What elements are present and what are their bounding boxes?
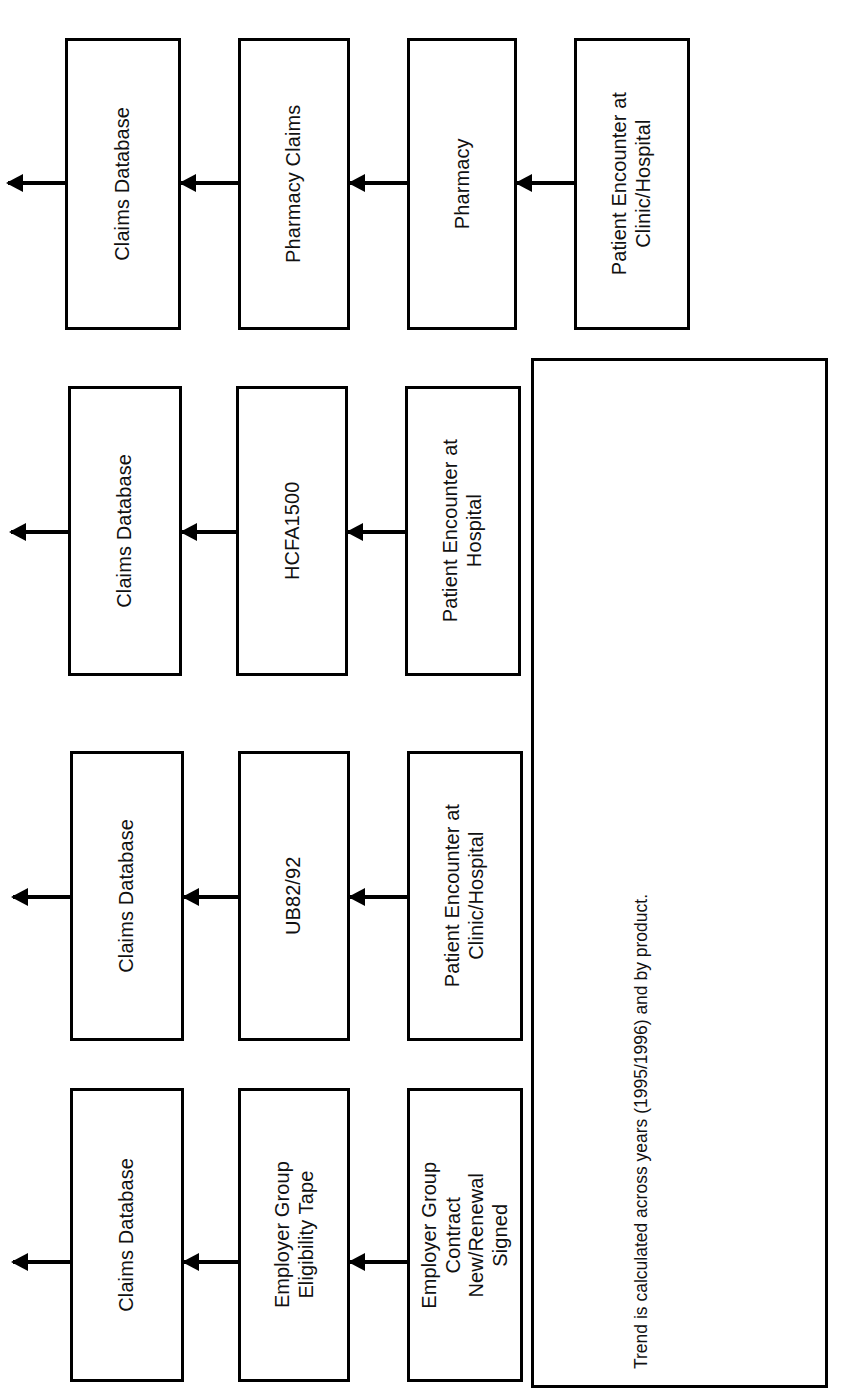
flow-box-label: Claims Database: [115, 819, 139, 973]
flow-box-label: Pharmacy: [450, 139, 474, 230]
flow-box-pharmacy-claims: Pharmacy Claims: [238, 38, 350, 330]
arrow-claims-database-pharmacy-output: [8, 181, 65, 185]
flow-box-hcfa1500: HCFA1500: [236, 386, 348, 676]
flow-box-label: Claims Database: [115, 1158, 139, 1312]
arrow-eligibility-tape-to-claims-database: [184, 1260, 238, 1264]
flow-box-label: Patient Encounter at Clinic/Hospital: [441, 804, 488, 987]
trend-notes-content: Trend is calculated across years (1995/1…: [552, 384, 828, 1369]
arrow-claims-database-hcfa-output: [11, 530, 68, 534]
flow-box-claims-database-pharmacy: Claims Database: [65, 38, 181, 330]
notes-spacer: [731, 384, 756, 1369]
trend-notes-rotor: Trend is calculated across years (1995/1…: [552, 384, 828, 1369]
flow-box-employer-group-contract: Employer Group Contract New/Renewal Sign…: [407, 1088, 523, 1382]
arrow-ub8292-to-claims-database: [184, 895, 238, 899]
flow-box-patient-encounter-clinic-hospital-pharmacy: Patient Encounter at Clinic/Hospital: [574, 38, 690, 330]
flow-box-label: Claims Database: [113, 454, 137, 608]
arrow-pharmacy-claims-to-claims-database: [181, 181, 238, 185]
arrow-pharmacy-to-pharmacy-claims: [350, 181, 407, 185]
flow-box-label: Patient Encounter at Clinic/Hospital: [608, 92, 655, 275]
flow-box-label: UB82/92: [282, 857, 306, 936]
flow-box-claims-database-hcfa: Claims Database: [68, 386, 182, 676]
flow-box-patient-encounter-clinic-hospital-ub: Patient Encounter at Clinic/Hospital: [407, 751, 523, 1041]
arrow-patient-encounter-to-pharmacy: [517, 181, 574, 185]
trend-notes-panel: Trend is calculated across years (1995/1…: [531, 358, 828, 1388]
flow-box-label: Pharmacy Claims: [282, 105, 306, 263]
flow-box-label: Employer Group Contract New/Renewal Sign…: [418, 1161, 512, 1308]
flow-box-pharmacy: Pharmacy: [407, 38, 517, 330]
arrow-patient-encounter-hospital-to-hcfa1500: [348, 530, 405, 534]
flow-box-label: Claims Database: [111, 107, 135, 261]
flow-box-employer-group-eligibility-tape: Employer Group Eligibility Tape: [238, 1088, 350, 1382]
flow-box-patient-encounter-hospital: Patient Encounter at Hospital: [405, 386, 521, 676]
flow-box-label: Employer Group Eligibility Tape: [270, 1161, 317, 1308]
arrow-contract-to-eligibility-tape: [350, 1260, 407, 1264]
flow-box-ub8292: UB82/92: [238, 751, 350, 1041]
arrow-patient-encounter-clinic-hospital-to-ub8292: [350, 895, 407, 899]
notes-intro-line: Trend is calculated across years (1995/1…: [629, 384, 655, 1369]
arrow-hcfa1500-to-claims-database: [182, 530, 236, 534]
flow-box-claims-database-ub: Claims Database: [70, 751, 184, 1041]
arrow-claims-database-employer-output: [13, 1260, 70, 1264]
flow-box-label: HCFA1500: [280, 482, 304, 581]
arrow-claims-database-ub-output: [13, 895, 70, 899]
flow-box-claims-database-employer: Claims Database: [70, 1088, 184, 1382]
flow-box-label: Patient Encounter at Hospital: [439, 439, 486, 622]
